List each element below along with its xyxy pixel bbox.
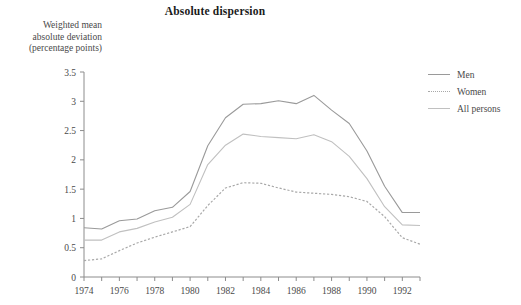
y-tick-label: 0.5: [64, 243, 76, 253]
y-tick-label: 3: [71, 97, 76, 107]
series-group: [84, 95, 420, 260]
legend-item-men: Men: [428, 66, 520, 83]
x-tick-label: 1974: [75, 286, 94, 296]
legend-label-men: Men: [457, 70, 474, 80]
series-line-men: [84, 95, 420, 229]
x-tick-label: 1986: [287, 286, 306, 296]
x-tick-label: 1984: [251, 286, 270, 296]
y-tick-label: 0: [71, 273, 76, 283]
x-tick-label: 1976: [110, 286, 129, 296]
x-tick-label: 1988: [322, 286, 341, 296]
y-axis-title: Weighted mean absolute deviation (percen…: [2, 20, 102, 55]
x-tick-label: 1980: [181, 286, 200, 296]
axes-group: [84, 72, 420, 277]
y-tick-label: 1: [71, 214, 76, 224]
y-tick-label: 3.5: [64, 68, 76, 78]
series-line-women: [84, 183, 420, 261]
y-tick-label: 1.5: [64, 185, 76, 195]
legend-item-all-persons: All persons: [428, 100, 520, 117]
y-tick-group: 00.511.522.533.5: [64, 68, 84, 283]
chart-legend: Men Women All persons: [428, 66, 520, 117]
legend-label-women: Women: [457, 87, 486, 97]
legend-label-all-persons: All persons: [457, 104, 501, 114]
series-line-all-persons: [84, 134, 420, 240]
x-tick-label: 1990: [357, 286, 376, 296]
x-tick-label: 1982: [216, 286, 235, 296]
x-tick-label: 1978: [145, 286, 164, 296]
legend-swatch-all-persons: [428, 108, 450, 109]
x-tick-label: 1992: [393, 286, 412, 296]
chart-title: Absolute dispersion: [0, 5, 430, 17]
y-tick-label: 2.5: [64, 126, 76, 136]
chart-figure: Absolute dispersion Weighted mean absolu…: [0, 0, 521, 305]
x-tick-group: 1974197619781980198219841986198819901992: [75, 277, 421, 296]
legend-item-women: Women: [428, 83, 520, 100]
legend-swatch-men: [428, 74, 450, 75]
y-tick-label: 2: [71, 155, 76, 165]
legend-swatch-women: [428, 91, 450, 92]
